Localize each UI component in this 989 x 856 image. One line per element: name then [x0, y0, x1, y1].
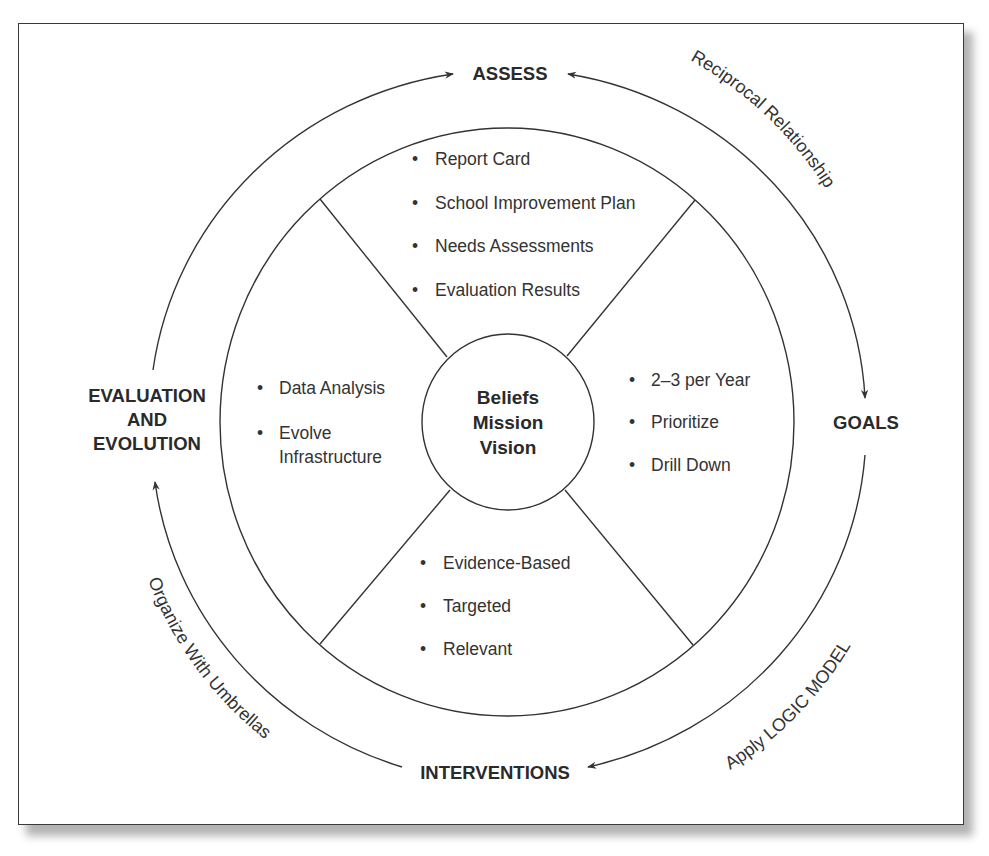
center-label-beliefs: Beliefs — [477, 387, 539, 408]
bullet-icon: • — [257, 423, 263, 443]
arc-assess-goals-reciprocal — [568, 74, 865, 398]
list-item: Evidence-Based — [443, 553, 570, 573]
list-item: Report Card — [435, 149, 530, 169]
arc-interventions-to-evaluation — [155, 482, 402, 767]
bullet-icon: • — [420, 553, 426, 573]
list-item: Data Analysis — [279, 378, 385, 398]
stage-label-evaluation: EVALUATION — [88, 385, 206, 406]
arc-label-reciprocal: Reciprocal Relationship — [688, 46, 839, 191]
bullet-icon: • — [412, 236, 418, 256]
quadrant-right-list: • 2–3 per Year • Prioritize • Drill Down — [629, 370, 750, 475]
center-label-mission: Mission — [473, 412, 544, 433]
quadrant-top-list: • Report Card • School Improvement Plan … — [412, 149, 635, 300]
bullet-icon: • — [412, 193, 418, 213]
cycle-diagram: Beliefs Mission Vision ASSESS GOALS INTE… — [0, 0, 989, 856]
quadrant-left-list: • Data Analysis • Evolve Infrastructure — [257, 378, 385, 467]
bullet-icon: • — [412, 149, 418, 169]
list-item: Relevant — [443, 639, 512, 659]
list-item: School Improvement Plan — [435, 193, 635, 213]
list-item: 2–3 per Year — [651, 370, 750, 390]
divider-bottom-left — [320, 490, 450, 644]
bullet-icon: • — [629, 412, 635, 432]
divider-bottom-right — [565, 490, 693, 645]
bullet-icon: • — [629, 370, 635, 390]
stage-label-and: AND — [127, 409, 167, 430]
list-item: Drill Down — [651, 455, 731, 475]
stage-label-goals: GOALS — [833, 412, 899, 433]
arc-label-logic-model: Apply LOGIC MODEL — [721, 637, 854, 773]
center-label-vision: Vision — [480, 437, 537, 458]
arc-label-umbrellas: Organize With Umbrellas — [144, 574, 275, 743]
divider-top-left — [320, 199, 447, 357]
list-item: Prioritize — [651, 412, 719, 432]
list-item: Evaluation Results — [435, 280, 580, 300]
bullet-icon: • — [412, 280, 418, 300]
stage-label-interventions: INTERVENTIONS — [420, 762, 570, 783]
divider-top-right — [567, 200, 695, 356]
list-item: Needs Assessments — [435, 236, 594, 256]
stage-label-evolution: EVOLUTION — [93, 433, 201, 454]
bullet-icon: • — [257, 378, 263, 398]
bullet-icon: • — [420, 596, 426, 616]
arc-evaluation-to-assess — [153, 74, 453, 370]
quadrant-bottom-list: • Evidence-Based • Targeted • Relevant — [420, 553, 570, 659]
list-item: Evolve — [279, 423, 332, 443]
list-item-continuation: Infrastructure — [279, 447, 382, 467]
list-item: Targeted — [443, 596, 511, 616]
stage-label-assess: ASSESS — [472, 63, 547, 84]
bullet-icon: • — [629, 455, 635, 475]
bullet-icon: • — [420, 639, 426, 659]
